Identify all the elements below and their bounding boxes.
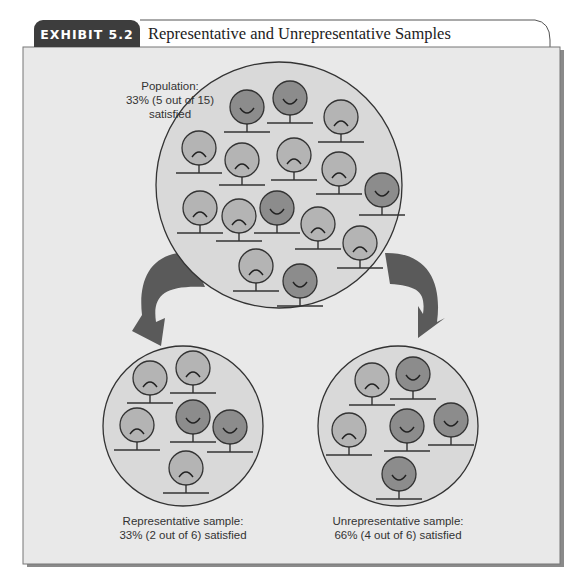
representative-sample-label: Representative sample: 33% (2 out of 6) … <box>103 514 263 542</box>
unrepresentative-label-line1: Unrepresentative sample: <box>318 514 478 528</box>
exhibit-diagram <box>0 0 579 583</box>
exhibit-tag: EXHIBIT 5.2 <box>34 20 140 47</box>
exhibit-title: Representative and Unrepresentative Samp… <box>148 24 451 44</box>
population-label-line2: 33% (5 out of 15) <box>110 93 230 107</box>
population-label: Population: 33% (5 out of 15) satisfied <box>110 79 230 121</box>
population-label-line1: Population: <box>110 79 230 93</box>
population-label-line3: satisfied <box>110 107 230 121</box>
representative-label-line1: Representative sample: <box>103 514 263 528</box>
unrepresentative-label-line2: 66% (4 out of 6) satisfied <box>318 528 478 542</box>
representative-label-line2: 33% (2 out of 6) satisfied <box>103 528 263 542</box>
unrepresentative-sample-label: Unrepresentative sample: 66% (4 out of 6… <box>318 514 478 542</box>
